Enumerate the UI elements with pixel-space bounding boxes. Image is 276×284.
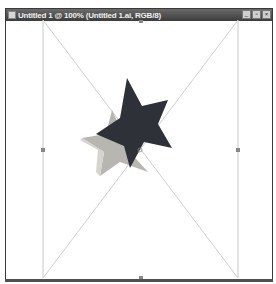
right-handle[interactable] — [236, 148, 240, 152]
top-handle[interactable] — [139, 20, 143, 23]
artwork-layer[interactable] — [0, 0, 276, 284]
left-handle[interactable] — [41, 148, 45, 152]
window-bottom-edge — [5, 279, 273, 282]
